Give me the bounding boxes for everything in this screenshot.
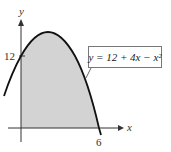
x-axis-arrow-icon	[118, 125, 124, 131]
y-axis-label: y	[19, 6, 24, 17]
x-axis-label: x	[127, 122, 132, 133]
x-tick-label-6: 6	[96, 137, 102, 148]
equation-text: y = 12 + 4x − x²	[88, 51, 161, 63]
equation-label-box: y = 12 + 4x − x²	[88, 46, 162, 68]
chart-canvas	[0, 0, 171, 152]
y-axis-arrow-icon	[18, 19, 24, 26]
y-tick-label-12: 12	[4, 51, 15, 62]
